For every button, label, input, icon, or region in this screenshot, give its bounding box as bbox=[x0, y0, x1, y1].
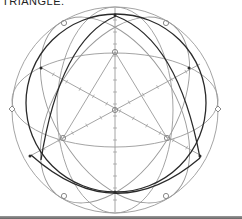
intersection-marker bbox=[61, 193, 66, 198]
vertex-dot bbox=[188, 67, 191, 70]
vertex-dot bbox=[40, 67, 43, 70]
bottom-divider bbox=[0, 216, 242, 219]
intersection-marker bbox=[163, 193, 168, 198]
vertex-dot bbox=[114, 191, 117, 194]
triangle-edge-right bbox=[115, 52, 167, 138]
sphere-diagram bbox=[0, 0, 242, 219]
triangle-edge-left bbox=[63, 52, 115, 138]
pole-marker bbox=[9, 106, 15, 112]
pole-marker bbox=[215, 106, 221, 112]
vertex-dot bbox=[199, 155, 202, 158]
vertex-dot bbox=[29, 155, 32, 158]
vertex-dot bbox=[114, 14, 117, 17]
dark-arc-bottom bbox=[31, 155, 200, 193]
